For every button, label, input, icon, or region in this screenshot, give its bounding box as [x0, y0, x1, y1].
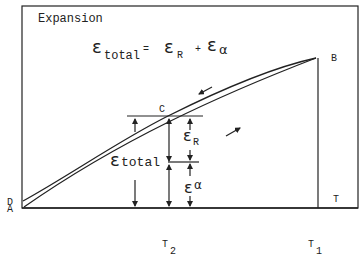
eq-lhs-sub: total [104, 49, 140, 63]
eps-alpha-symbol: ε [184, 178, 193, 197]
point-label-c: C [159, 104, 165, 115]
heating-direction-arrow [226, 128, 240, 136]
eps-r-symbol: ε [183, 126, 192, 145]
tick-t1-sub: 1 [316, 246, 322, 257]
diagram-title: Expansion [38, 12, 103, 26]
eq-rhs1-sub: R [177, 50, 183, 61]
eq-rhs1-symbol: ε [164, 36, 174, 57]
eq-equals: = [143, 44, 149, 55]
eps-alpha-sub: α [194, 178, 202, 192]
diagram-canvas: Expansion ε total = ε R + ε α B C D A T … [0, 0, 362, 264]
eq-lhs-symbol: ε [92, 36, 102, 57]
eps-total-symbol: ε [110, 149, 120, 170]
cooling-direction-arrow [199, 87, 212, 94]
eps-r-sub: R [193, 137, 199, 148]
heating-curve-a-b [24, 58, 316, 207]
point-label-a: A [7, 204, 13, 215]
eq-rhs2-symbol: ε [207, 34, 217, 55]
eq-plus: + [195, 44, 201, 55]
expansion-diagram: Expansion ε total = ε R + ε α B C D A T … [0, 0, 362, 264]
tick-t2: T [162, 239, 168, 250]
x-axis-label-t: T [333, 194, 339, 205]
tick-t2-sub: 2 [170, 246, 176, 257]
tick-t1: T [308, 239, 314, 250]
point-label-b: B [331, 53, 337, 64]
eq-rhs2-sub: α [219, 42, 228, 57]
eps-total-sub: total [121, 155, 160, 170]
